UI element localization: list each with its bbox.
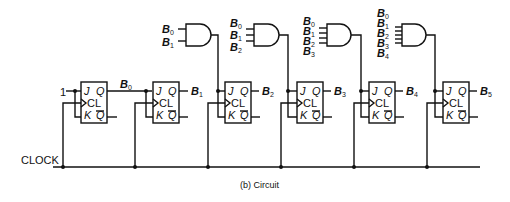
flip-flop-4: J Q CL K Q xyxy=(369,82,395,123)
flip-flop-5: J Q CL K Q xyxy=(443,82,469,123)
svg-text:J: J xyxy=(155,85,162,97)
output-b2-label: B2 xyxy=(262,85,274,98)
flip-flop-1: J Q CL K Q xyxy=(153,82,179,123)
svg-text:CL: CL xyxy=(159,97,173,109)
svg-text:K: K xyxy=(228,109,236,121)
output-b4-label: B4 xyxy=(406,85,418,98)
svg-text:J: J xyxy=(299,85,306,97)
svg-text:Q: Q xyxy=(458,85,467,97)
flip-flop-0: J Q CL K Q xyxy=(81,82,107,123)
and-gate-2-input: B0 B1 xyxy=(162,23,218,91)
svg-text:B2: B2 xyxy=(230,41,242,54)
output-b3-label: B3 xyxy=(334,85,346,98)
svg-text:J: J xyxy=(371,85,378,97)
synchronous-counter-circuit: CLOCK 1 J Q CL K Q B0 J Q CL K Q B1 B0 B xyxy=(0,0,510,202)
constant-one-label: 1 xyxy=(60,86,66,98)
svg-text:Q: Q xyxy=(168,85,177,97)
svg-text:Q: Q xyxy=(96,85,105,97)
output-b5-label: B5 xyxy=(480,85,492,98)
svg-text:K: K xyxy=(446,109,454,121)
svg-text:Q: Q xyxy=(240,85,249,97)
svg-text:CL: CL xyxy=(449,97,463,109)
svg-text:K: K xyxy=(156,109,164,121)
flip-flop-2: J Q CL K Q xyxy=(225,82,251,123)
and-gate-5-input: B0 B1 B2 B3 B4 xyxy=(377,7,435,91)
svg-text:CL: CL xyxy=(375,97,389,109)
svg-text:K: K xyxy=(84,109,92,121)
svg-text:CL: CL xyxy=(231,97,245,109)
clock-label: CLOCK xyxy=(21,154,60,166)
svg-text:Q: Q xyxy=(384,85,393,97)
svg-text:Q: Q xyxy=(312,85,321,97)
svg-text:J: J xyxy=(83,85,90,97)
output-b0-label: B0 xyxy=(120,78,132,91)
output-b1-label: B1 xyxy=(191,85,203,98)
and-gate-4-input: B0 B1 B2 B3 xyxy=(303,15,361,91)
svg-text:CL: CL xyxy=(303,97,317,109)
svg-text:J: J xyxy=(227,85,234,97)
svg-text:B0: B0 xyxy=(162,23,174,36)
svg-text:K: K xyxy=(300,109,308,121)
and-gate-3-input: B0 B1 B2 xyxy=(230,17,288,91)
svg-text:J: J xyxy=(445,85,452,97)
svg-text:CL: CL xyxy=(87,97,101,109)
svg-text:K: K xyxy=(372,109,380,121)
flip-flop-3: J Q CL K Q xyxy=(297,82,323,123)
figure-caption: (b) Circuit xyxy=(240,180,280,190)
svg-text:B1: B1 xyxy=(162,36,174,49)
